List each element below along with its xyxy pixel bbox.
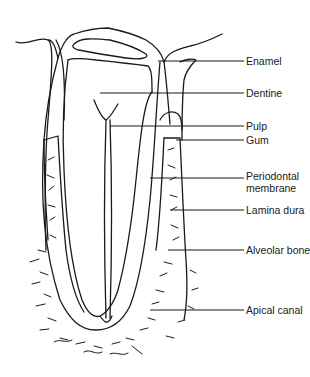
label-periodontal-line1: Periodontal [246, 170, 299, 182]
label-pulp: Pulp [246, 120, 267, 132]
tooth-left-outer [43, 58, 160, 330]
label-alveolar-bone: Alveolar bone [246, 244, 310, 256]
dentine-crown-outline [68, 59, 152, 93]
label-periodontal-line2: membrane [246, 182, 299, 194]
pulp-outline [94, 100, 118, 120]
right-bone-band [164, 138, 187, 320]
gum-arch [160, 112, 182, 130]
label-enamel: Enamel [246, 55, 282, 67]
label-lamina-dura: Lamina dura [246, 204, 304, 216]
pulp-canal-right [110, 120, 112, 318]
right-bone-band-inner [156, 138, 164, 250]
enamel-crown-top [73, 39, 147, 59]
alveolar-bone-texture [30, 148, 198, 354]
label-periodontal-membrane: Periodontal membrane [246, 170, 299, 194]
label-apical-canal: Apical canal [246, 304, 303, 316]
label-dentine: Dentine [246, 87, 282, 99]
label-gum: Gum [246, 134, 269, 146]
enamel-outer-outline [48, 28, 222, 62]
pulp-canal-left [105, 120, 107, 318]
